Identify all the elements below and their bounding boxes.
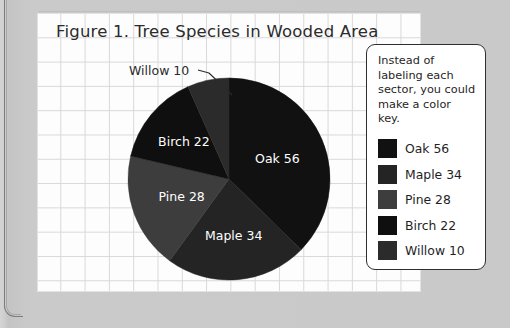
color-key-list: Oak 56Maple 34Pine 28Birch 22Willow 10 bbox=[378, 136, 476, 264]
page-edge-line-inner bbox=[6, 0, 21, 315]
color-key-swatch-icon bbox=[378, 139, 397, 158]
color-key-box: Instead of labeling each sector, you cou… bbox=[366, 44, 486, 270]
color-key-label: Pine 28 bbox=[405, 192, 451, 207]
willow-callout-label: Willow 10 bbox=[129, 63, 189, 78]
pie-sector-label: Oak 56 bbox=[255, 151, 300, 166]
pie-sector-label: Birch 22 bbox=[158, 134, 210, 149]
pie-chart-svg: Oak 56Maple 34Pine 28Birch 22 bbox=[124, 77, 334, 282]
color-key-item: Birch 22 bbox=[378, 212, 476, 238]
color-key-swatch-icon bbox=[378, 216, 397, 235]
color-key-label: Willow 10 bbox=[405, 243, 465, 258]
color-key-note: Instead of labeling each sector, you cou… bbox=[378, 54, 476, 127]
color-key-swatch-icon bbox=[378, 241, 397, 260]
pie-sector-label: Maple 34 bbox=[205, 228, 262, 243]
color-key-label: Birch 22 bbox=[405, 218, 456, 233]
color-key-item: Oak 56 bbox=[378, 136, 476, 162]
pie-chart: Oak 56Maple 34Pine 28Birch 22 bbox=[124, 77, 334, 282]
color-key-item: Willow 10 bbox=[378, 238, 476, 264]
pie-sector-group bbox=[128, 78, 330, 280]
figure-title: Figure 1. Tree Species in Wooded Area bbox=[56, 22, 379, 41]
color-key-swatch-icon bbox=[378, 190, 397, 209]
color-key-item: Maple 34 bbox=[378, 161, 476, 187]
color-key-swatch-icon bbox=[378, 165, 397, 184]
color-key-label: Oak 56 bbox=[405, 141, 449, 156]
leader-line-icon bbox=[196, 66, 246, 100]
color-key-item: Pine 28 bbox=[378, 187, 476, 213]
pie-sector-label: Pine 28 bbox=[159, 189, 205, 204]
color-key-label: Maple 34 bbox=[405, 167, 462, 182]
